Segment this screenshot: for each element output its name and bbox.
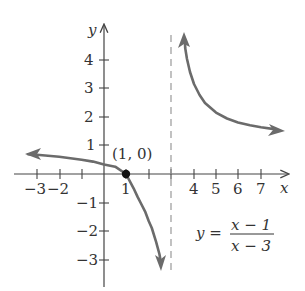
arrow-right-branch-right [268, 124, 285, 136]
graph-figure: y x 4 3 2 1 −1 −2 −3 −3 −2 1 4 5 6 7 (1,… [0, 0, 305, 291]
point-1-0 [122, 170, 130, 178]
x-tick-label-m2: −2 [47, 180, 69, 198]
x-tick-label-1: 1 [121, 180, 131, 198]
x-tick-label-4: 4 [189, 180, 199, 198]
x-axis-label: x [280, 179, 289, 197]
y-tick-label-2: 2 [84, 108, 94, 126]
y-tick-label-3: 3 [84, 79, 94, 97]
graph-svg: y x 4 3 2 1 −1 −2 −3 −3 −2 1 4 5 6 7 (1,… [0, 0, 305, 291]
y-tick-label-m1: −1 [76, 194, 98, 212]
x-tick-label-5: 5 [211, 180, 221, 198]
equation-numerator: x − 1 [231, 216, 271, 234]
x-tick-label-6: 6 [233, 180, 243, 198]
equation-lhs: y = [195, 224, 222, 242]
x-tick-label-7: 7 [256, 180, 266, 198]
y-tick-label-4: 4 [84, 51, 94, 69]
x-tick-label-m3: −3 [24, 180, 46, 198]
y-axis-label: y [87, 21, 97, 39]
point-label: (1, 0) [112, 145, 152, 163]
curve-right-branch [185, 43, 276, 129]
y-tick-label-m3: −3 [76, 251, 98, 269]
y-tick-label-1: 1 [86, 136, 96, 154]
y-tick-label-m2: −2 [76, 222, 98, 240]
equation-denominator: x − 3 [231, 237, 271, 255]
